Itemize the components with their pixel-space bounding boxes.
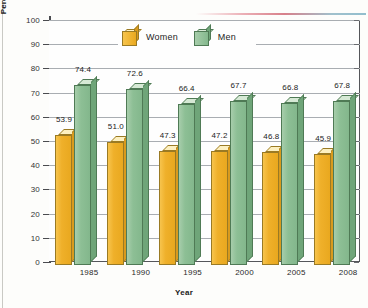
y-axis-tick-label: 0: [35, 258, 40, 267]
bar-front-face: [74, 85, 91, 265]
bar-women-1990[interactable]: [107, 142, 124, 265]
bar-men-2008[interactable]: [333, 101, 350, 265]
bar-front-face: [107, 142, 124, 265]
bar-women-2005[interactable]: [262, 152, 279, 265]
orange-cube-icon: [122, 29, 139, 46]
y-axis-tick-label: 10: [31, 233, 40, 242]
bar-front-face: [281, 103, 298, 265]
x-axis-title: Year: [0, 288, 368, 297]
bar-front-face: [126, 89, 143, 265]
bar-women-1985[interactable]: [55, 135, 72, 265]
bar-side-face: [91, 76, 97, 262]
y-axis-tick: [43, 141, 49, 142]
legend-item-men[interactable]: Men: [194, 29, 236, 46]
y-axis-tick: [43, 93, 49, 94]
y-axis-tick-label: 40: [31, 161, 40, 170]
bar-men-1995[interactable]: [178, 104, 195, 265]
y-axis-tick-label: 70: [31, 88, 40, 97]
y-axis-tick-right: [354, 262, 359, 263]
bar-front-face: [230, 101, 247, 265]
y-axis-tick-label: 100: [26, 16, 40, 25]
bar-front-face: [159, 151, 176, 265]
y-axis-tick-label: 20: [31, 209, 40, 218]
y-axis-tick: [43, 189, 49, 190]
x-axis-label-2008: 2008: [318, 268, 368, 277]
gridline: [49, 20, 360, 21]
y-axis-tick: [43, 214, 49, 215]
bar-front-face: [314, 154, 331, 265]
y-axis-tick: [43, 20, 49, 21]
y-axis-tick: [43, 44, 49, 45]
bar-front-face: [178, 104, 195, 265]
bar-men-2000[interactable]: [230, 101, 247, 265]
bar-women-2008[interactable]: [314, 154, 331, 265]
bar-value-label: 67.7: [222, 81, 256, 90]
bar-front-face: [55, 135, 72, 265]
y-axis-tick: [43, 68, 49, 69]
y-axis-tick-label: 50: [31, 137, 40, 146]
y-axis-tick-right: [354, 20, 359, 21]
bar-side-face: [350, 92, 356, 262]
y-axis-tick-right: [354, 44, 359, 45]
bar-men-1990[interactable]: [126, 89, 143, 265]
bar-front-face: [333, 101, 350, 265]
y-axis-tick: [43, 238, 49, 239]
y-axis-tick-right: [354, 68, 359, 69]
bar-side-face: [143, 80, 149, 262]
bar-value-label: 72.6: [118, 69, 152, 78]
bar-value-label: 74.4: [66, 65, 100, 74]
y-axis-title-line-1: Percentage Describing Their Health: [0, 0, 9, 14]
y-axis-title: Percentage Describing Their Health as "A…: [0, 0, 20, 40]
y-axis-tick: [43, 262, 49, 263]
legend-label-men: Men: [218, 32, 236, 42]
scan-color-bar-artifact: [196, 13, 366, 15]
bar-women-2000[interactable]: [211, 151, 228, 265]
bar-men-1985[interactable]: [74, 85, 91, 265]
legend-item-women[interactable]: Women: [122, 29, 178, 46]
bar-front-face: [262, 152, 279, 265]
bar-men-2005[interactable]: [281, 103, 298, 265]
y-axis-tick-label: 80: [31, 64, 40, 73]
bar-value-label: 66.4: [170, 84, 204, 93]
legend-label-women: Women: [146, 32, 178, 42]
chart-plot-area: 0102030405060708090100 53.974.451.072.64…: [49, 20, 360, 262]
bar-women-1995[interactable]: [159, 151, 176, 265]
y-axis-tick: [43, 165, 49, 166]
green-cube-icon: [194, 29, 211, 46]
bar-front-face: [211, 151, 228, 265]
bar-side-face: [195, 95, 201, 262]
bar-value-label: 67.8: [325, 81, 359, 90]
bar-side-face: [298, 94, 304, 262]
y-axis-tick-label: 90: [31, 40, 40, 49]
bar-value-label: 66.8: [273, 83, 307, 92]
page-left-rule: [2, 0, 3, 308]
y-axis-tick-label: 30: [31, 185, 40, 194]
chart-legend: Women Men: [118, 24, 256, 50]
y-axis-tick-label: 60: [31, 112, 40, 121]
bar-side-face: [247, 92, 253, 262]
